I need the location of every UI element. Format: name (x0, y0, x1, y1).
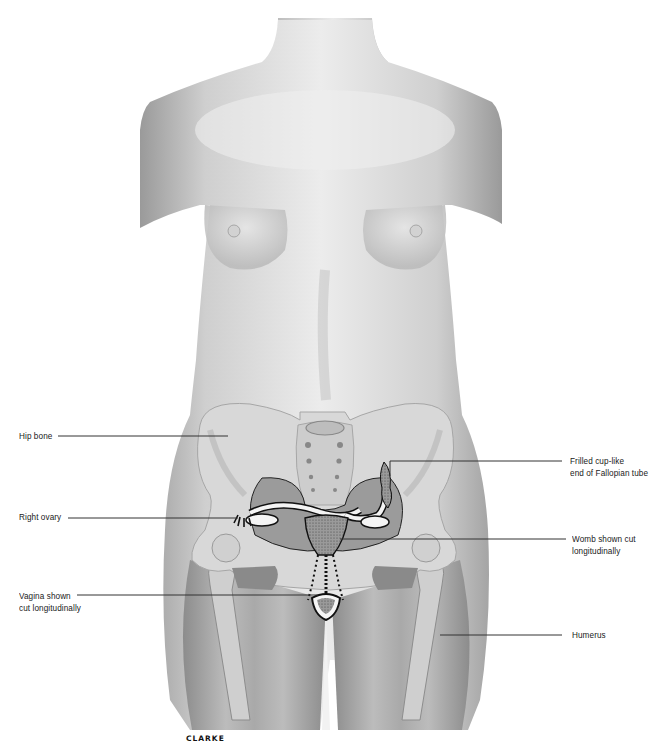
artist-signature: CLARKE (186, 734, 225, 743)
torso-illustration (0, 0, 667, 755)
label-right-ovary: Right ovary (19, 511, 61, 523)
anatomy-figure: Hip bone Right ovary Vagina shown cut lo… (0, 0, 667, 755)
right-nipple (410, 225, 422, 237)
label-womb: Womb shown cut longitudinally (572, 533, 636, 557)
label-vagina: Vagina shown cut longitudinally (19, 590, 81, 614)
vertebra-disc (306, 421, 344, 435)
left-nipple (228, 225, 240, 237)
right-obturator (372, 566, 418, 590)
label-hip-bone: Hip bone (19, 430, 52, 442)
left-ovary (361, 516, 389, 528)
label-frilled-fallopian: Frilled cup-like end of Fallopian tube (570, 455, 648, 479)
label-humerus: Humerus (572, 629, 606, 641)
left-obturator (232, 566, 278, 590)
